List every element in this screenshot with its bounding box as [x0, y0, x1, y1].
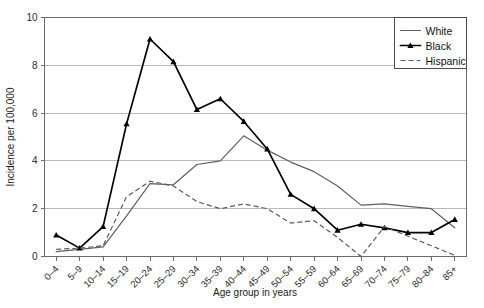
x-axis-title: Age group in years — [213, 287, 297, 298]
y-tick-label: 4 — [32, 155, 38, 166]
data-point-marker-black — [452, 216, 458, 222]
x-tick-label: 80–84 — [409, 263, 435, 289]
legend: WhiteBlackHispanic — [395, 18, 467, 69]
x-axis-title-label: Age group in years — [213, 287, 297, 298]
x-tick-label: 20–24 — [128, 263, 154, 289]
series-line-white — [56, 136, 455, 252]
data-point-marker-black — [123, 121, 129, 127]
y-axis: 0246810 — [26, 12, 44, 262]
x-tick-label: 10–14 — [81, 263, 107, 289]
y-tick-label: 0 — [32, 251, 38, 262]
x-tick-label: 30–34 — [175, 263, 201, 289]
x-tick-label: 15–19 — [105, 263, 131, 289]
x-tick-label: 40–44 — [222, 263, 248, 289]
legend-label-white: White — [426, 25, 453, 37]
x-tick-label: 65–69 — [339, 263, 365, 289]
y-tick-label: 6 — [32, 108, 38, 119]
data-point-marker-black — [147, 36, 153, 42]
chart-canvas: 0246810 0–45–910–1415–1920–2425–2930–343… — [0, 0, 484, 308]
data-point-marker-black — [100, 224, 106, 230]
series-line-hispanic — [56, 181, 455, 256]
x-tick-label: 85+ — [440, 263, 459, 282]
x-tick-label: 35–39 — [198, 263, 224, 289]
y-tick-label: 10 — [26, 12, 38, 23]
y-tick-label: 8 — [32, 60, 38, 71]
x-tick-label: 75–79 — [386, 263, 412, 289]
x-tick-label: 60–64 — [316, 263, 342, 289]
x-tick-label: 70–74 — [362, 263, 388, 289]
x-tick-label: 0–4 — [42, 263, 61, 282]
legend-label-black: Black — [426, 40, 452, 52]
incidence-by-age-chart: 0246810 0–45–910–1415–1920–2425–2930–343… — [0, 0, 484, 308]
data-point-marker-black — [53, 232, 59, 238]
data-point-marker-black — [217, 96, 223, 102]
x-axis: 0–45–910–1415–1920–2425–2930–3435–3940–4… — [42, 257, 460, 290]
y-axis-title-label: Incidence per 100,000 — [5, 87, 16, 186]
data-point-marker-black — [288, 191, 294, 197]
y-axis-title: Incidence per 100,000 — [5, 87, 16, 186]
y-tick-label: 2 — [32, 203, 38, 214]
x-tick-label: 50–54 — [269, 263, 295, 289]
x-tick-label: 45–49 — [245, 263, 271, 289]
x-tick-label: 5–9 — [65, 263, 84, 282]
x-tick-label: 55–59 — [292, 263, 318, 289]
x-tick-label: 25–29 — [151, 263, 177, 289]
legend-label-hispanic: Hispanic — [426, 55, 466, 67]
